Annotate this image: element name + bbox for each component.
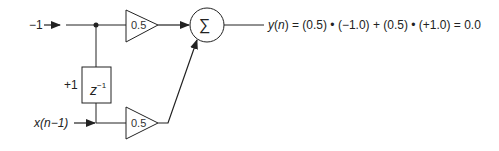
summer-symbol: ∑ — [199, 16, 210, 34]
output-equation: y(n) = (0.5) • (−1.0) + (0.5) • (+1.0) =… — [268, 18, 481, 32]
amp-bottom-to-summer-wire — [158, 40, 197, 123]
amplifier-top-gain: 0.5 — [131, 19, 146, 31]
delay-exponent: −1 — [97, 81, 106, 90]
output-n-symbol: n — [278, 18, 285, 32]
delay-operator-label: z−1 — [90, 79, 106, 97]
amplifier-bottom-gain: 0.5 — [131, 117, 146, 129]
output-equation-rest: ) = (0.5) • (−1.0) + (0.5) • (+1.0) = 0.… — [285, 18, 481, 32]
current-input-label: −1 — [29, 18, 43, 32]
output-y-symbol: y — [268, 18, 274, 32]
delayed-input-label: x(n−1) — [34, 116, 68, 130]
delay-base: z — [90, 82, 97, 98]
delay-initial-value-label: +1 — [64, 78, 78, 92]
